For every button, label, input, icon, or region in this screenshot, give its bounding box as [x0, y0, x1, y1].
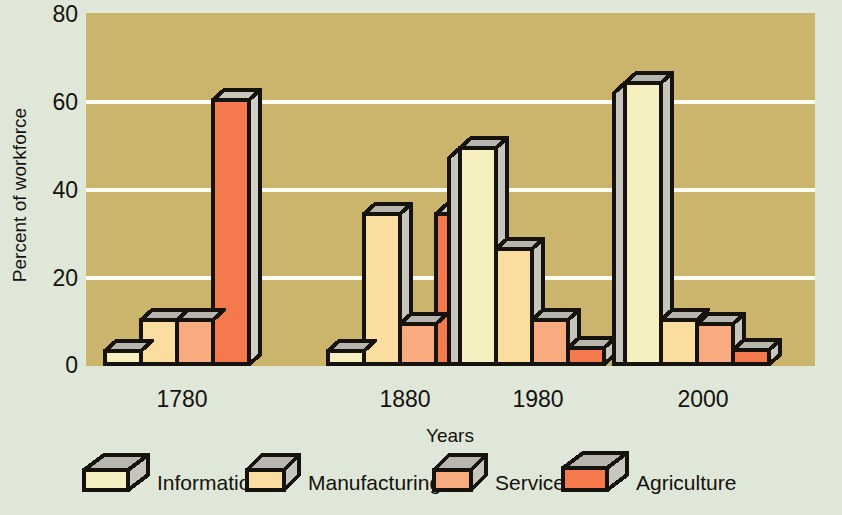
x-axis-title: Years: [426, 425, 474, 446]
y-tick-0: 0: [65, 352, 78, 378]
bar-2000-information[interactable]: [614, 73, 672, 364]
legend-swatch-agriculture-icon: [563, 453, 627, 490]
gridline-60: [86, 100, 815, 104]
legend-swatch-service-icon: [434, 455, 486, 490]
chart-figure: 80 60 40 20 0 Percent of workforce 1780 …: [0, 0, 842, 515]
y-tick-60: 60: [52, 89, 78, 115]
y-tick-20: 20: [52, 265, 78, 291]
legend-label-agriculture: Agriculture: [636, 471, 736, 494]
x-tick-2000: 2000: [677, 386, 728, 412]
bar-1780-agriculture[interactable]: [213, 90, 260, 364]
legend-label-manufacturing: Manufacturing: [308, 471, 441, 494]
legend-swatch-manufacturing-icon: [247, 455, 299, 490]
y-tick-40: 40: [52, 177, 78, 203]
y-tick-80: 80: [52, 1, 78, 27]
x-tick-1780: 1780: [156, 386, 207, 412]
legend-label-service: Service: [495, 471, 565, 494]
x-tick-1980: 1980: [512, 386, 563, 412]
y-axis-title: Percent of workforce: [9, 108, 30, 282]
x-tick-1880: 1880: [379, 386, 430, 412]
